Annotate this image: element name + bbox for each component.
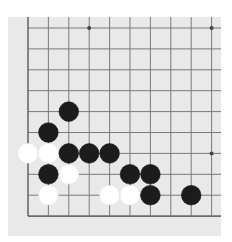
star-point-icon bbox=[210, 26, 214, 30]
black-stone[interactable] bbox=[59, 102, 79, 122]
white-stone[interactable] bbox=[59, 165, 79, 185]
white-stone[interactable] bbox=[39, 185, 59, 205]
black-stone[interactable] bbox=[100, 144, 120, 164]
white-stone[interactable] bbox=[100, 185, 120, 205]
star-point-icon bbox=[210, 151, 214, 155]
white-stone[interactable] bbox=[39, 144, 59, 164]
black-stone[interactable] bbox=[79, 144, 99, 164]
white-stone[interactable] bbox=[120, 185, 140, 205]
black-stone[interactable] bbox=[59, 144, 79, 164]
black-stone[interactable] bbox=[39, 123, 59, 143]
black-stone[interactable] bbox=[181, 185, 201, 205]
black-stone[interactable] bbox=[120, 165, 140, 185]
black-stone[interactable] bbox=[141, 185, 161, 205]
board-grid[interactable] bbox=[8, 17, 221, 236]
black-stone[interactable] bbox=[141, 165, 161, 185]
go-board[interactable] bbox=[8, 17, 221, 236]
white-stone[interactable] bbox=[18, 144, 38, 164]
star-point-icon bbox=[87, 26, 91, 30]
black-stone[interactable] bbox=[39, 165, 59, 185]
